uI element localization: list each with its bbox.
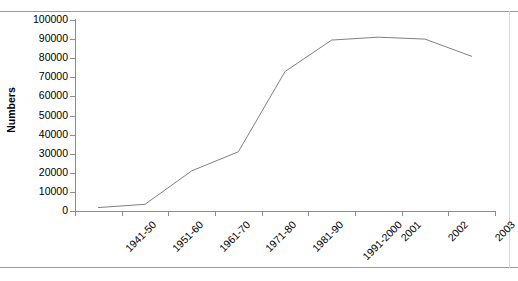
data-series-line bbox=[0, 0, 518, 281]
chart-figure: Numbers 01000020000300004000050000600007… bbox=[0, 0, 518, 281]
